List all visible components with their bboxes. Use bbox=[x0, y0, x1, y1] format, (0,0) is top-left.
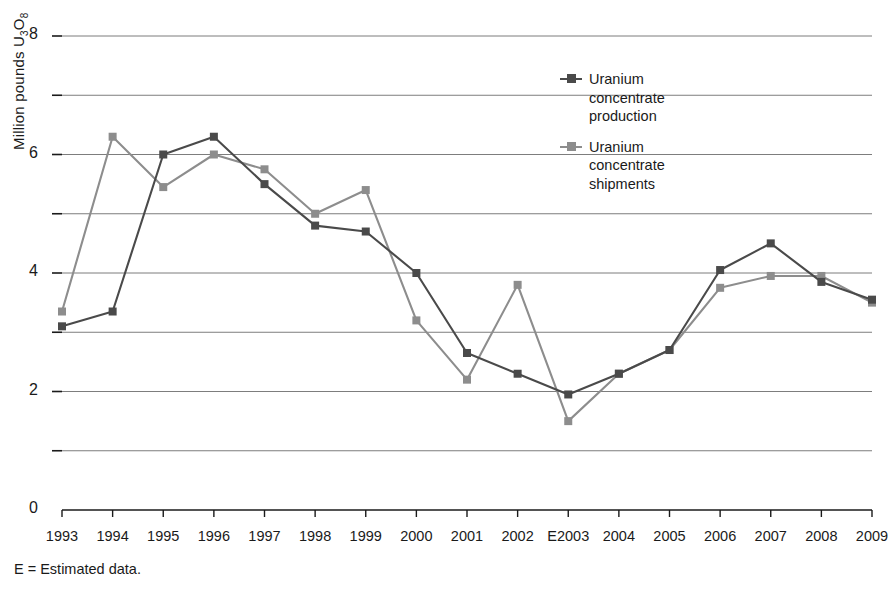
y-tick-label: 2 bbox=[14, 381, 38, 399]
data-point bbox=[817, 278, 825, 286]
data-point bbox=[868, 296, 876, 304]
y-tick-label: 6 bbox=[14, 144, 38, 162]
series-shipments bbox=[58, 133, 876, 425]
data-point bbox=[615, 370, 623, 378]
data-point bbox=[159, 151, 167, 159]
y-tick-label: 8 bbox=[14, 25, 38, 43]
legend-marker-production-icon bbox=[560, 70, 582, 88]
x-axis-ticks bbox=[62, 510, 872, 517]
chart-footnote: E = Estimated data. bbox=[14, 561, 141, 577]
data-point bbox=[210, 133, 218, 141]
data-point bbox=[58, 308, 66, 316]
data-point bbox=[261, 165, 269, 173]
data-point bbox=[666, 346, 674, 354]
series-production bbox=[58, 133, 876, 399]
data-point bbox=[463, 376, 471, 384]
legend-label-production: Uranium concentrate production bbox=[589, 70, 665, 126]
data-point bbox=[210, 151, 218, 159]
data-point bbox=[362, 228, 370, 236]
data-point bbox=[109, 133, 117, 141]
data-point bbox=[564, 390, 572, 398]
legend-marker-shipments-icon bbox=[560, 138, 582, 156]
data-point bbox=[159, 183, 167, 191]
chart-legend: Uranium concentrate production Uranium c… bbox=[560, 70, 665, 205]
data-point bbox=[311, 210, 319, 218]
y-tick-label: 4 bbox=[14, 262, 38, 280]
data-point bbox=[716, 266, 724, 274]
gridlines bbox=[62, 36, 872, 451]
data-point bbox=[767, 239, 775, 247]
data-point bbox=[564, 417, 572, 425]
data-point bbox=[412, 269, 420, 277]
x-tick-label: 2009 bbox=[840, 528, 892, 544]
data-point bbox=[58, 322, 66, 330]
data-point bbox=[109, 308, 117, 316]
data-point bbox=[767, 272, 775, 280]
y-axis-ticks bbox=[52, 36, 62, 451]
y-tick-label: 0 bbox=[14, 499, 38, 517]
data-point bbox=[311, 222, 319, 230]
legend-item-shipments: Uranium concentrate shipments bbox=[560, 138, 665, 194]
data-point bbox=[716, 284, 724, 292]
data-point bbox=[412, 316, 420, 324]
data-point bbox=[362, 186, 370, 194]
data-point bbox=[514, 370, 522, 378]
legend-label-shipments: Uranium concentrate shipments bbox=[589, 138, 665, 194]
y-axis-title: Million pounds U3O8 bbox=[10, 0, 30, 150]
data-point bbox=[261, 180, 269, 188]
data-point bbox=[463, 349, 471, 357]
data-point bbox=[514, 281, 522, 289]
legend-item-production: Uranium concentrate production bbox=[560, 70, 665, 126]
